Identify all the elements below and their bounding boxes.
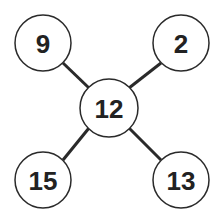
node-bottom-right: 13 bbox=[153, 152, 209, 208]
diagram-canvas: 9 2 12 15 13 bbox=[0, 0, 221, 219]
node-label: 15 bbox=[29, 166, 58, 196]
edge-bottom-left bbox=[63, 128, 89, 160]
node-label: 2 bbox=[174, 29, 188, 59]
edge-top-left bbox=[63, 63, 89, 88]
node-label: 9 bbox=[36, 29, 50, 59]
node-top-left: 9 bbox=[15, 15, 71, 71]
node-bottom-left: 15 bbox=[15, 152, 71, 208]
edge-bottom-right bbox=[129, 128, 161, 160]
star-diagram: 9 2 12 15 13 bbox=[0, 0, 221, 219]
edge-top-right bbox=[129, 63, 161, 88]
node-top-right: 2 bbox=[153, 15, 209, 71]
node-center: 12 bbox=[80, 79, 138, 137]
node-label: 13 bbox=[167, 166, 196, 196]
node-label: 12 bbox=[95, 94, 124, 124]
